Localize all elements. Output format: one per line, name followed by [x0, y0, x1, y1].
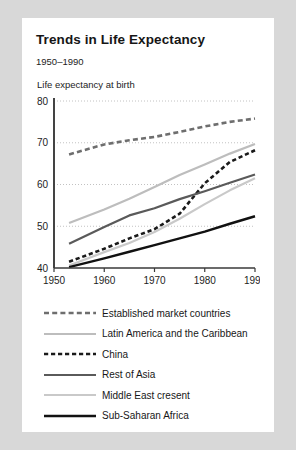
legend-swatch-icon: [38, 369, 102, 381]
legend-item-label: China: [102, 349, 128, 360]
legend-item[interactable]: Rest of Asia: [38, 365, 262, 386]
legend-item[interactable]: Middle East cresent: [38, 385, 262, 406]
x-axis-tick-label: 1980: [194, 275, 217, 286]
legend-item-label: Middle East cresent: [102, 390, 190, 401]
y-axis-tick-label: 40: [37, 263, 49, 274]
legend-item-label: Sub-Saharan Africa: [102, 410, 189, 421]
chart-plot-area: 405060708019501960197019801990: [24, 93, 260, 293]
legend-swatch-icon: [38, 348, 102, 360]
y-axis-tick-label: 80: [37, 96, 49, 107]
chart-legend: Established market countriesLatin Americ…: [38, 303, 262, 426]
y-axis-tick-label: 60: [37, 179, 49, 190]
legend-item[interactable]: Latin America and the Caribbean: [38, 324, 262, 345]
legend-item-label: Established market countries: [102, 308, 230, 319]
legend-item[interactable]: Established market countries: [38, 303, 262, 324]
legend-swatch-icon: [38, 410, 102, 422]
y-axis-tick-label: 50: [37, 221, 49, 232]
legend-swatch-icon: [38, 328, 102, 340]
legend-item[interactable]: China: [38, 344, 262, 365]
x-axis-tick-label: 1950: [43, 275, 66, 286]
legend-item[interactable]: Sub-Saharan Africa: [38, 406, 262, 427]
legend-item-label: Rest of Asia: [102, 369, 155, 380]
x-axis-tick-label: 1990: [244, 275, 260, 286]
line-chart: 405060708019501960197019801990: [24, 93, 262, 293]
y-axis-tick-label: 70: [37, 137, 49, 148]
legend-item-label: Latin America and the Caribbean: [102, 328, 248, 339]
page-title: Trends in Life Expectancy: [36, 32, 262, 47]
series-line: [69, 119, 255, 155]
y-axis-caption: Life expectancy at birth: [37, 79, 262, 90]
chart-subtitle: 1950–1990: [36, 56, 262, 67]
x-axis-tick-label: 1970: [143, 275, 166, 286]
legend-swatch-icon: [38, 389, 102, 401]
legend-swatch-icon: [38, 307, 102, 319]
x-axis-tick-label: 1960: [93, 275, 116, 286]
chart-card: Trends in Life Expectancy 1950–1990 Life…: [22, 18, 274, 432]
